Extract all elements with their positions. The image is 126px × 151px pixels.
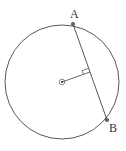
label-b: B	[109, 121, 117, 135]
label-a: A	[70, 7, 79, 21]
diagram-svg: A B	[0, 0, 126, 151]
center-dot	[61, 81, 63, 83]
point-a-marker	[71, 22, 75, 26]
circle-chord-diagram: A B	[0, 0, 126, 151]
perpendicular-segment	[62, 72, 90, 82]
